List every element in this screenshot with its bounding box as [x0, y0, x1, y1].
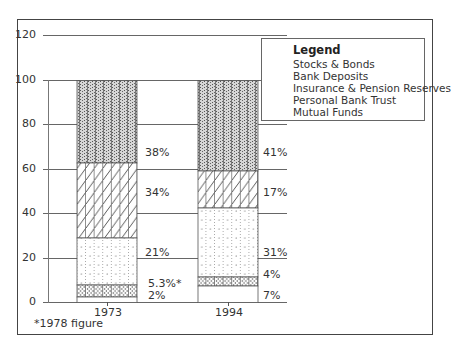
label-1973-deposits: 34% — [145, 186, 169, 199]
y-tick-20: 20 — [10, 251, 36, 264]
label-1973-insurance: 21% — [145, 246, 169, 259]
label-1994-trust: 4% — [263, 268, 280, 281]
footnote: *1978 figure — [34, 317, 103, 330]
y-tick-40: 40 — [10, 206, 36, 219]
label-1994-mutual: 7% — [263, 289, 280, 302]
y-tick-60: 60 — [10, 162, 36, 175]
y-tick-120: 120 — [10, 28, 36, 41]
label-1994-insurance: 31% — [263, 246, 287, 259]
legend-item-mutual-funds: Mutual Funds — [293, 106, 363, 119]
label-1994-deposits: 17% — [263, 186, 287, 199]
x-label-1994: 1994 — [209, 306, 249, 319]
label-1973-mutual: 2% — [148, 289, 165, 302]
y-tick-0: 0 — [10, 295, 36, 308]
bar-1973 — [77, 81, 137, 303]
legend: Legend Stocks & Bonds Bank Deposits Insu… — [261, 38, 425, 121]
label-1973-stocks: 38% — [145, 146, 169, 159]
y-tick-100: 100 — [10, 73, 36, 86]
legend-title: Legend — [293, 43, 341, 57]
y-tick-80: 80 — [10, 117, 36, 130]
label-1994-stocks: 41% — [263, 146, 287, 159]
bar-1994 — [198, 81, 258, 303]
